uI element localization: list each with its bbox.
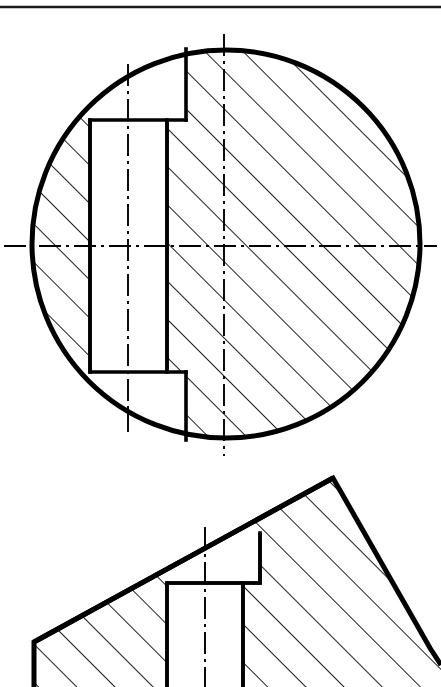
circular-section-view xyxy=(0,30,441,470)
inclined-section-view xyxy=(0,460,441,687)
technical-drawing-svg xyxy=(0,0,441,687)
section-hatching-circle xyxy=(0,30,441,470)
technical-drawing-canvas xyxy=(0,0,441,687)
